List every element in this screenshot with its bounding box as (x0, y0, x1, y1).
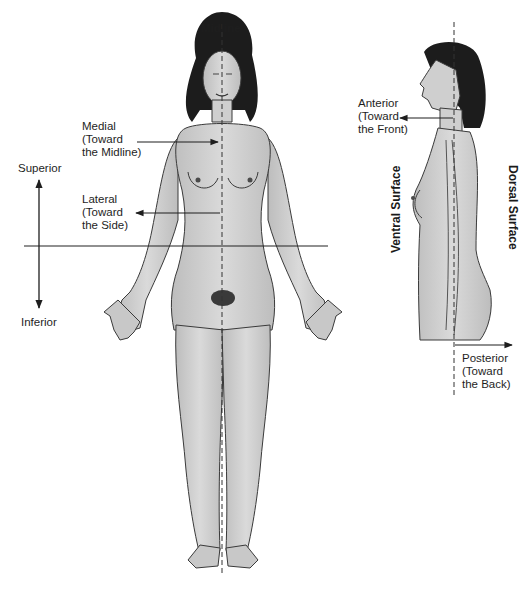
ventral-surface-label: Ventral Surface (389, 166, 403, 253)
posterior-label: Posterior (Toward the Back) (462, 352, 511, 391)
posterior-label-line-1: Posterior (462, 352, 511, 365)
posterior-label-line-3: the Back) (462, 378, 511, 391)
anatomy-diagram: Midline Medial (Toward the Midline) Supe… (0, 0, 530, 592)
medial-label-line-3: the Midline) (82, 146, 141, 159)
diagram-artwork (0, 0, 530, 592)
anterior-label-line-2: (Toward (358, 110, 408, 123)
side-view-figure (411, 42, 491, 340)
anterior-label-line-3: the Front) (358, 123, 408, 136)
anterior-label-line-1: Anterior (358, 97, 408, 110)
medial-label: Medial (Toward the Midline) (82, 120, 141, 159)
medial-label-line-1: Medial (82, 120, 141, 133)
lateral-label-line-3: the Side) (82, 219, 128, 232)
dorsal-surface-label: Dorsal Surface (506, 165, 520, 250)
lateral-label-line-1: Lateral (82, 193, 128, 206)
front-view-figure (104, 12, 342, 568)
posterior-label-line-2: (Toward (462, 365, 511, 378)
anterior-label: Anterior (Toward the Front) (358, 97, 408, 136)
midline-label: Midline (201, 22, 241, 35)
medial-label-line-2: (Toward (82, 133, 141, 146)
lateral-label-line-2: (Toward (82, 206, 128, 219)
lateral-label: Lateral (Toward the Side) (82, 193, 128, 232)
inferior-label: Inferior (21, 316, 57, 329)
superior-label: Superior (18, 162, 61, 175)
